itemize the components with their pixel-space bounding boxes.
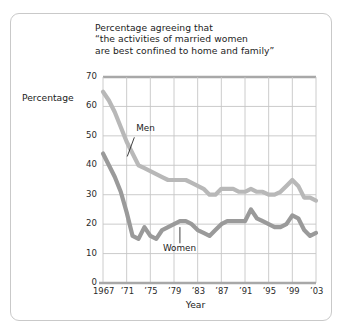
x-tick-label: ’87 <box>215 286 227 296</box>
annotation-women: Women <box>163 243 196 253</box>
x-tick-label: ’91 <box>239 286 251 296</box>
y-tick-label: 50 <box>69 130 97 140</box>
x-tick-label: ’79 <box>168 286 180 296</box>
x-tick-label: ’75 <box>144 286 156 296</box>
y-tick-label: 40 <box>69 159 97 169</box>
annotation-men: Men <box>136 123 155 133</box>
x-tick-label: ’95 <box>263 286 275 296</box>
series-line-men <box>103 92 316 201</box>
y-tick-label: 70 <box>69 71 97 81</box>
y-tick-label: 60 <box>69 100 97 110</box>
y-tick-label: 10 <box>69 248 97 258</box>
x-tick-label: ’71 <box>121 286 133 296</box>
x-tick-label: ’99 <box>286 286 298 296</box>
y-tick-label: 30 <box>69 189 97 199</box>
chart-figure: Percentage agreeing that “the activities… <box>0 0 343 335</box>
x-tick-label: ’03 <box>310 286 322 296</box>
plot-area: 010203040506070 1967’71’75’79’83’87’91’9… <box>0 0 343 335</box>
plot-svg <box>0 0 343 335</box>
y-tick-label: 20 <box>69 218 97 228</box>
x-tick-label: 1967 <box>93 286 113 296</box>
x-tick-label: ’83 <box>192 286 204 296</box>
